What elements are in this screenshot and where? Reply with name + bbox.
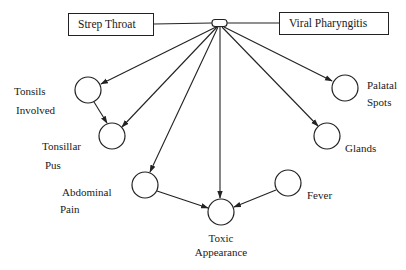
root-node-label: Viral Pharyngitis [289,18,367,30]
node-toxic-appearance [208,199,234,225]
label-tonsillar-pus: Tonsillar Pus [42,139,81,172]
root-node-viral-pharyngitis: Viral Pharyngitis [279,12,389,35]
edge-fever-toxic [234,190,276,207]
label-line: Toxic [193,231,249,245]
label-line: Palatal [367,78,397,92]
label-line: Glands [345,141,376,155]
label-fever: Fever [307,188,332,202]
label-line: Pain [60,202,112,216]
edge-abdominal-toxic [157,191,208,208]
label-abdominal-pain: Abdominal Pain [62,185,112,216]
label-line: Involved [16,103,55,117]
label-glands: Glands [345,141,376,155]
root-node-strep-throat: Strep Throat [68,13,154,36]
node-glands [314,123,340,149]
node-tonsillar-pus [99,123,125,149]
edge-hub-glands [222,27,318,126]
node-fever [275,170,301,196]
label-toxic-appearance: Toxic Appearance [193,231,249,259]
node-palatal-spots [332,75,358,101]
edge-hub-tonsillar [122,27,217,127]
hub-node [212,20,227,27]
label-line: Appearance [193,245,249,259]
edge-strep-hub [154,23,212,24]
label-line: Pus [45,158,81,172]
label-line: Tonsillar [42,139,81,153]
edge-tonsils-tonsillar [94,102,107,123]
label-line: Spots [367,95,397,109]
label-line: Abdominal [62,185,112,199]
edge-hub-palatal [224,27,332,81]
node-tonsils-involved [75,77,101,103]
label-tonsils-involved: Tonsils Involved [14,84,55,117]
label-line: Fever [307,188,332,202]
label-line: Tonsils [14,84,55,98]
node-abdominal-pain [132,172,158,198]
edge-hub-abdominal [150,27,218,172]
root-node-label: Strep Throat [78,19,136,31]
network-diagram [0,0,406,270]
label-palatal-spots: Palatal Spots [367,78,397,109]
